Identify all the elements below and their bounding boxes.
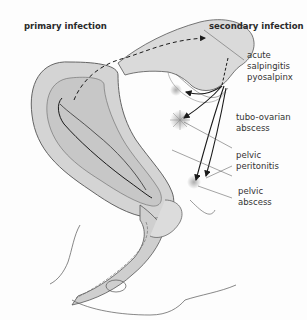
pelvic-abscess-marker [187,175,201,189]
label-acute-salpingitis: acute salpingitis pyosalpinx [247,50,293,83]
label-pelvic-peritonitis: pelvic peritonitis [236,150,279,172]
label-pelvic-abscess: pelvic abscess [238,186,272,208]
uterus [31,62,173,218]
vagina [72,200,182,305]
secondary-infection-heading: secondary infection [209,21,304,31]
primary-infection-heading: primary infection [24,21,107,31]
spread-arrows [184,86,226,180]
infection-sites [170,84,201,189]
label-tubo-ovarian-abscess: tubo-ovarian abscess [236,112,291,134]
fallopian-tube [118,20,254,103]
diagram-canvas: primary infection secondary infection ac… [0,0,307,320]
